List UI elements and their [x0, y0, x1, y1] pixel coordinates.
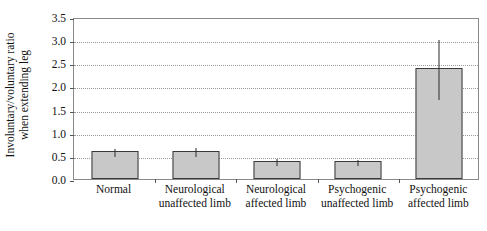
- bar-group: [399, 19, 480, 179]
- x-axis-category-label: Neurologicalunaffected limb: [154, 183, 235, 210]
- x-axis-category-label: Neurologicalaffected limb: [235, 183, 316, 210]
- y-axis-tick-label: 0.0: [52, 174, 66, 186]
- x-axis-category-label-line: affected limb: [235, 197, 316, 211]
- x-axis-category-label-line: Normal: [73, 183, 154, 197]
- y-axis-title-line-2: when extending leg: [17, 33, 31, 158]
- error-bar: [358, 160, 359, 166]
- y-axis-title: Involuntary/voluntary ratio when extendi…: [0, 0, 34, 190]
- y-axis-tick-label: 0.5: [52, 151, 66, 163]
- y-axis-title-line-1: Involuntary/voluntary ratio: [3, 33, 17, 158]
- error-bar: [114, 149, 115, 157]
- bar-group: [236, 19, 317, 179]
- x-axis-category-label-line: Psychogenic: [398, 183, 479, 197]
- plot-area: [73, 18, 479, 180]
- y-axis-tick-label: 3.0: [52, 35, 66, 47]
- x-axis-category-label-line: unaffected limb: [154, 197, 235, 211]
- x-axis-category-label: Psychogenicunaffected limb: [317, 183, 398, 210]
- error-bar: [195, 148, 196, 157]
- x-axis-category-label: Normal: [73, 183, 154, 197]
- y-axis-tick-mark: [70, 181, 74, 182]
- error-bar: [439, 40, 440, 100]
- x-axis-category-label-line: Neurological: [154, 183, 235, 197]
- x-axis-category-labels: NormalNeurologicalunaffected limbNeurolo…: [73, 183, 479, 229]
- y-axis-tick-label: 2.5: [52, 58, 66, 70]
- y-axis-tick-label: 1.5: [52, 105, 66, 117]
- x-axis-category-label-line: Psychogenic: [317, 183, 398, 197]
- bar-series: [74, 19, 478, 179]
- y-axis-tick-label: 2.0: [52, 81, 66, 93]
- x-axis-category-label-line: Neurological: [235, 183, 316, 197]
- bar-group: [318, 19, 399, 179]
- error-bar: [276, 159, 277, 166]
- x-axis-category-label-line: unaffected limb: [317, 197, 398, 211]
- x-axis-category-label: Psychogenicaffected limb: [398, 183, 479, 210]
- bar-group: [74, 19, 155, 179]
- x-axis-category-label-line: affected limb: [398, 197, 479, 211]
- y-axis-tick-labels: 0.00.51.01.52.02.53.03.5: [34, 18, 70, 180]
- bar-chart-figure: Involuntary/voluntary ratio when extendi…: [0, 0, 487, 231]
- bar-group: [155, 19, 236, 179]
- y-axis-tick-label: 1.0: [52, 128, 66, 140]
- y-axis-tick-label: 3.5: [52, 12, 66, 24]
